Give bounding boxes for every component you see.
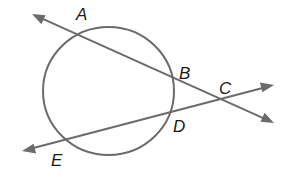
arrowhead-upper-left-icon [32,14,46,24]
arrowhead-lower-right-icon [261,113,275,123]
arrowhead-lower-left-icon [22,144,36,154]
circle [43,27,174,155]
secant-line-abc [40,18,266,120]
secant-circle-diagram: A B C D E [0,0,290,177]
point-label-b: B [179,64,190,83]
point-label-e: E [51,151,63,170]
point-label-d: D [173,117,185,136]
point-label-a: A [75,5,87,24]
point-label-c: C [219,79,232,98]
arrowhead-upper-right-icon [260,83,274,93]
